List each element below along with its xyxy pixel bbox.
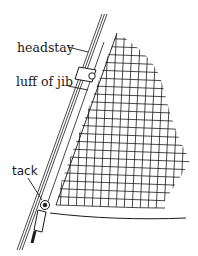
- headstay-label: headstay: [17, 42, 74, 55]
- sail-edge: [56, 33, 117, 205]
- luff-of-jib-label: luff of jib: [16, 76, 73, 89]
- tack-label: tack: [12, 165, 38, 177]
- diagram-drawing: [0, 0, 198, 256]
- sail-foot: [50, 213, 186, 219]
- hank-clip: [75, 67, 96, 82]
- jib-diagram: headstay luff of jib tack: [0, 0, 198, 256]
